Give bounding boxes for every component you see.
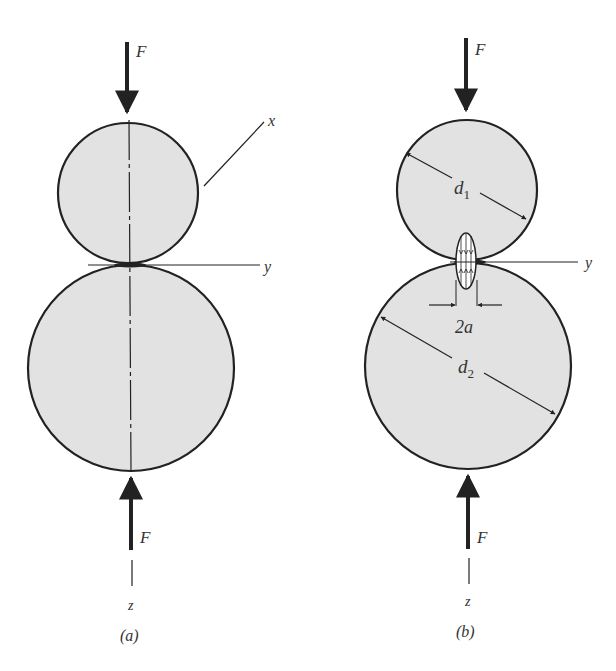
z-axis-label: z [464, 594, 471, 609]
y-axis-label: y [583, 254, 593, 272]
x-axis-label: x [267, 112, 275, 129]
caption-a: (a) [120, 627, 139, 645]
y-axis-label: y [262, 258, 272, 276]
bottom-force-label: F [476, 528, 488, 547]
caption-b: (b) [456, 623, 475, 641]
panel-a: y x F F z (a) [28, 42, 275, 645]
bottom-force-label: F [139, 528, 151, 547]
top-force-label: F [135, 42, 147, 61]
z-axis-label: z [127, 598, 134, 613]
contact-stress-figure: y x F F z (a) y d1 [0, 0, 616, 671]
top-force-label: F [474, 40, 486, 59]
contact-width-label: 2a [455, 317, 473, 337]
x-axis-line [204, 122, 264, 186]
panel-b: y d1 2a d2 F F z (b) [365, 38, 593, 641]
top-cylinder [58, 123, 198, 263]
pressure-distribution [456, 233, 476, 289]
